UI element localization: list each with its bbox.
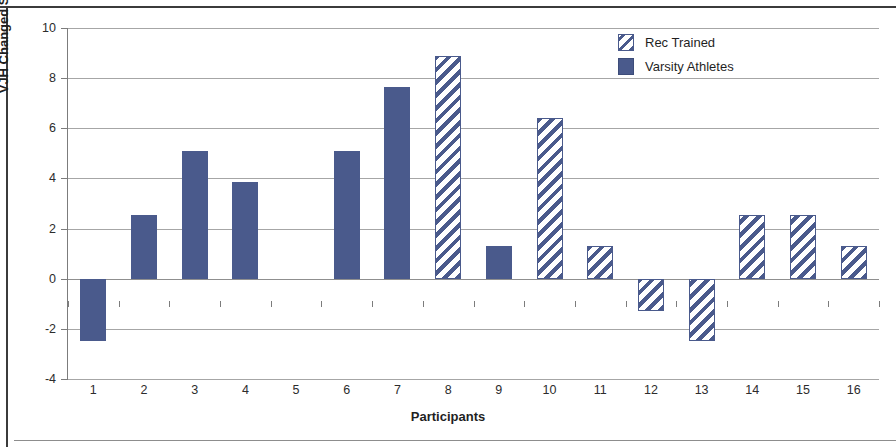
x-axis-title: Participants bbox=[0, 409, 896, 424]
x-axis-tick bbox=[727, 301, 728, 307]
x-axis-tick-label-14: 14 bbox=[732, 384, 772, 397]
y-axis-tick bbox=[61, 128, 68, 129]
x-axis-tick bbox=[778, 301, 779, 307]
x-axis-tick-label-13: 13 bbox=[682, 384, 722, 397]
y-axis-tick-label: 8 bbox=[0, 72, 56, 85]
gridline bbox=[68, 78, 879, 79]
bar-participant-14 bbox=[739, 215, 765, 279]
x-axis-tick bbox=[575, 301, 576, 307]
y-axis-tick bbox=[61, 329, 68, 330]
gridline bbox=[68, 128, 879, 129]
y-axis-tick bbox=[61, 379, 68, 380]
x-axis-tick bbox=[271, 301, 272, 307]
bar-chart: VJH Changed Scores (cm) 1086420-2-4 1234… bbox=[0, 0, 896, 447]
bar-participant-16 bbox=[841, 246, 867, 279]
x-axis-tick-label-10: 10 bbox=[530, 384, 570, 397]
bar-participant-8 bbox=[435, 56, 461, 279]
x-axis-tick bbox=[676, 301, 677, 307]
chart-page: VJH Changed Scores (cm) 1086420-2-4 1234… bbox=[0, 0, 896, 447]
y-axis-tick-label: 0 bbox=[0, 272, 56, 285]
gridline bbox=[68, 28, 879, 29]
x-axis-tick-label-5: 5 bbox=[276, 384, 316, 397]
bar-participant-15 bbox=[790, 215, 816, 279]
x-axis-tick-label-1: 1 bbox=[73, 384, 113, 397]
y-axis-tick-label: -2 bbox=[0, 323, 56, 336]
x-axis-tick bbox=[879, 301, 880, 307]
legend-swatch-icon bbox=[618, 58, 634, 75]
x-axis-tick bbox=[220, 301, 221, 307]
x-axis-tick bbox=[68, 301, 69, 307]
y-axis-tick-label: 2 bbox=[0, 222, 56, 235]
y-axis-tick bbox=[61, 78, 68, 79]
bar-participant-3 bbox=[182, 151, 208, 279]
x-axis-tick bbox=[626, 301, 627, 307]
y-axis-tick bbox=[61, 178, 68, 179]
legend-swatch-icon bbox=[618, 34, 634, 51]
x-axis-tick-label-11: 11 bbox=[580, 384, 620, 397]
gridline bbox=[68, 279, 879, 280]
x-axis-tick bbox=[423, 301, 424, 307]
x-axis-tick-label-2: 2 bbox=[124, 384, 164, 397]
x-axis-tick-label-16: 16 bbox=[834, 384, 874, 397]
bar-participant-12 bbox=[638, 279, 664, 312]
bar-participant-4 bbox=[232, 182, 258, 279]
x-axis-tick bbox=[321, 301, 322, 307]
legend-item-rec-trained: Rec Trained bbox=[618, 30, 848, 54]
x-axis-tick bbox=[169, 301, 170, 307]
x-axis-tick-label-9: 9 bbox=[479, 384, 519, 397]
x-axis-tick bbox=[474, 301, 475, 307]
x-axis-tick-label-3: 3 bbox=[175, 384, 215, 397]
bar-participant-13 bbox=[689, 279, 715, 342]
bar-participant-7 bbox=[384, 87, 410, 279]
y-axis-tick bbox=[61, 28, 68, 29]
y-axis-title: VJH Changed Scores (cm) bbox=[0, 0, 11, 112]
bar-participant-1 bbox=[80, 279, 106, 342]
x-axis-tick bbox=[372, 301, 373, 307]
y-axis-tick-label: 4 bbox=[0, 172, 56, 185]
plot-area bbox=[68, 28, 879, 379]
y-axis-tick-label: 10 bbox=[0, 22, 56, 35]
x-axis-tick-label-7: 7 bbox=[377, 384, 417, 397]
legend-item-label: Varsity Athletes bbox=[645, 60, 734, 73]
bar-participant-9 bbox=[486, 246, 512, 279]
x-axis-tick bbox=[828, 301, 829, 307]
y-axis-tick bbox=[61, 229, 68, 230]
bar-participant-6 bbox=[334, 151, 360, 279]
x-axis-tick-label-6: 6 bbox=[327, 384, 367, 397]
y-axis-tick bbox=[61, 279, 68, 280]
x-axis-tick-label-4: 4 bbox=[225, 384, 265, 397]
gridline bbox=[68, 329, 879, 330]
x-axis-tick-label-8: 8 bbox=[428, 384, 468, 397]
bar-participant-11 bbox=[587, 246, 613, 279]
x-axis-tick bbox=[119, 301, 120, 307]
bar-participant-2 bbox=[131, 215, 157, 279]
chart-legend: Rec TrainedVarsity Athletes bbox=[618, 30, 848, 78]
legend-item-varsity-athletes: Varsity Athletes bbox=[618, 54, 848, 78]
gridline bbox=[68, 379, 879, 380]
x-axis-tick bbox=[524, 301, 525, 307]
y-axis-tick-label: 6 bbox=[0, 122, 56, 135]
x-axis-tick-label-15: 15 bbox=[783, 384, 823, 397]
x-axis-tick-label-12: 12 bbox=[631, 384, 671, 397]
legend-item-label: Rec Trained bbox=[645, 36, 715, 49]
bar-participant-10 bbox=[537, 118, 563, 278]
y-axis-tick-label: -4 bbox=[0, 373, 56, 386]
